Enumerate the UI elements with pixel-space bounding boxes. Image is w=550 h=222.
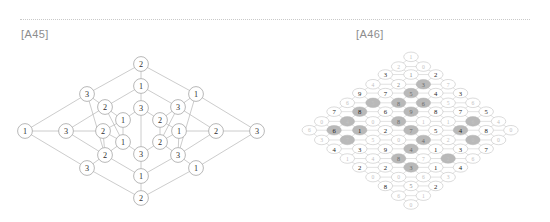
- a45-node: 3: [171, 100, 186, 115]
- a46-cell: 4: [453, 163, 468, 173]
- a46-cell: 1: [416, 191, 431, 201]
- svg-text:8: 8: [397, 155, 400, 162]
- svg-text:7: 7: [409, 127, 412, 134]
- a45-node: 2: [209, 124, 224, 139]
- a45-node: 3: [80, 161, 95, 176]
- a46-cell: 2: [378, 163, 393, 173]
- a46-cell: 8: [352, 107, 367, 117]
- svg-text:2: 2: [214, 127, 218, 136]
- a45-node: 1: [189, 161, 204, 176]
- a46-cell: 3: [453, 88, 468, 98]
- svg-text:0: 0: [372, 174, 375, 180]
- a46-cell: 3: [441, 172, 456, 182]
- a46-cell: 6: [416, 172, 431, 182]
- a46-cell: 7: [441, 79, 456, 89]
- svg-text:0: 0: [471, 137, 474, 143]
- figure-caption-a46: [A46]: [356, 28, 384, 40]
- svg-text:1: 1: [139, 82, 143, 91]
- a46-cell: 6: [340, 98, 355, 108]
- a46-cell: 8: [378, 181, 393, 191]
- a46-cell: 5: [404, 88, 419, 98]
- a46-cell: 6: [466, 154, 481, 164]
- a46-cell: 8: [391, 98, 406, 108]
- svg-text:7: 7: [422, 156, 425, 162]
- svg-text:1: 1: [422, 193, 425, 199]
- a45-node: 1: [172, 124, 187, 139]
- svg-text:6: 6: [422, 100, 425, 107]
- svg-text:6: 6: [346, 100, 349, 106]
- a46-cell: 2: [378, 125, 393, 135]
- svg-text:0: 0: [510, 127, 513, 133]
- a46-cell: 8: [391, 154, 406, 164]
- a45-node: 1: [189, 87, 204, 102]
- svg-text:0: 0: [372, 119, 375, 125]
- a46-cell: 9: [378, 144, 393, 154]
- svg-text:3: 3: [85, 164, 89, 173]
- svg-text:2: 2: [384, 127, 387, 134]
- a46-cell: 7: [340, 135, 355, 145]
- a46-cell: 0: [504, 125, 519, 135]
- a45-node: 3: [59, 124, 74, 139]
- a46-cell: 6: [416, 98, 431, 108]
- svg-text:1: 1: [434, 146, 437, 153]
- svg-text:1: 1: [346, 156, 349, 162]
- svg-text:3: 3: [422, 81, 425, 88]
- a45-node: 1: [18, 124, 33, 139]
- svg-text:0: 0: [497, 137, 500, 143]
- a46-cell: 4: [453, 125, 468, 135]
- svg-text:6: 6: [471, 119, 474, 125]
- a46-cell: 4: [366, 154, 381, 164]
- a46-cell: 2: [429, 70, 444, 80]
- svg-text:1: 1: [139, 172, 143, 181]
- svg-text:6: 6: [471, 100, 474, 106]
- svg-text:4: 4: [497, 119, 500, 125]
- svg-text:1: 1: [177, 127, 181, 136]
- svg-text:2: 2: [103, 151, 107, 160]
- a46-cell: 3: [378, 70, 393, 80]
- a46-cell: 0: [366, 117, 381, 127]
- a45-node: 2: [153, 113, 168, 128]
- a46-cell: 7: [378, 88, 393, 98]
- svg-text:2: 2: [434, 71, 437, 78]
- a46-cell: 8: [429, 107, 444, 117]
- svg-text:8: 8: [397, 100, 400, 107]
- figure-a46-lattice: 1203124237975436586567869875040811646612…: [272, 48, 550, 216]
- svg-text:4: 4: [372, 82, 375, 88]
- a46-cell: 5: [479, 107, 494, 117]
- svg-text:2: 2: [103, 103, 107, 112]
- dotted-separator-rule: [20, 19, 530, 21]
- svg-text:6: 6: [471, 156, 474, 162]
- svg-text:2: 2: [434, 183, 437, 190]
- figure-page: [A45] [A46] 213312321132321132132123 120…: [0, 0, 550, 222]
- a46-cell: 6: [302, 125, 317, 135]
- svg-text:2: 2: [447, 137, 450, 143]
- a46-cell: 0: [404, 200, 419, 210]
- a46-cell: 5: [429, 125, 444, 135]
- svg-text:0: 0: [397, 137, 400, 143]
- a46-cell: 3: [453, 144, 468, 154]
- svg-text:4: 4: [422, 137, 425, 144]
- a46-cell-layer: 1203124237975436586567869875040811646612…: [302, 52, 518, 209]
- a46-cell: 1: [352, 125, 367, 135]
- a46-cell: 9: [404, 107, 419, 117]
- a46-cell: 0: [314, 117, 329, 127]
- svg-text:2: 2: [397, 82, 400, 88]
- a46-cell: 7: [479, 144, 494, 154]
- a46-cell: 3: [404, 163, 419, 173]
- svg-text:2: 2: [358, 164, 361, 171]
- svg-text:2: 2: [397, 64, 400, 70]
- svg-text:4: 4: [346, 119, 349, 125]
- a45-node: 2: [134, 191, 149, 206]
- svg-text:1: 1: [410, 54, 413, 60]
- svg-text:0: 0: [422, 64, 425, 70]
- a46-cell: 6: [466, 117, 481, 127]
- a45-node: 3: [250, 124, 265, 139]
- svg-text:7: 7: [447, 82, 450, 88]
- a45-node: 3: [134, 101, 149, 116]
- a45-node: 2: [98, 148, 113, 163]
- a45-node: 3: [171, 148, 186, 163]
- svg-text:6: 6: [308, 127, 311, 133]
- a46-cell: 5: [404, 181, 419, 191]
- a46-cell: 0: [491, 135, 506, 145]
- a46-cell: 2: [441, 135, 456, 145]
